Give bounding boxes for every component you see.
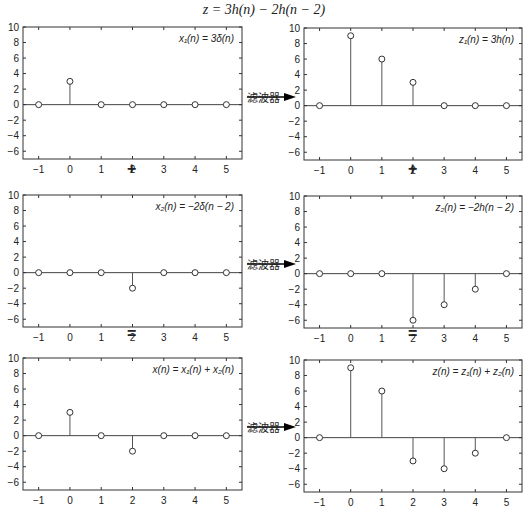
svg-text:10: 10 — [289, 23, 301, 34]
svg-text:−4: −4 — [289, 299, 301, 310]
stem-plot-1: −6−4−20246810−1012345x₁(n) = 3δ(n) — [8, 22, 242, 176]
svg-text:−1: −1 — [33, 164, 45, 175]
svg-text:−2: −2 — [8, 283, 20, 294]
svg-text:3: 3 — [161, 495, 167, 506]
svg-text:0: 0 — [294, 432, 300, 443]
svg-text:10: 10 — [289, 191, 301, 202]
equals-right: = — [408, 325, 417, 343]
plus-left: + — [127, 160, 136, 178]
svg-text:8: 8 — [294, 370, 300, 381]
svg-text:1: 1 — [379, 497, 385, 508]
svg-text:2: 2 — [13, 84, 19, 95]
svg-text:−2: −2 — [8, 115, 20, 126]
svg-text:x(n) = x₁(n) + x₂(n): x(n) = x₁(n) + x₂(n) — [152, 364, 234, 375]
svg-text:1: 1 — [98, 332, 104, 343]
svg-text:8: 8 — [294, 38, 300, 49]
svg-text:0: 0 — [13, 99, 19, 110]
svg-text:5: 5 — [504, 333, 510, 344]
svg-text:6: 6 — [294, 222, 300, 233]
svg-text:−6: −6 — [8, 146, 20, 157]
svg-text:4: 4 — [473, 165, 479, 176]
svg-text:−6: −6 — [8, 314, 20, 325]
svg-text:5: 5 — [224, 495, 230, 506]
svg-text:−4: −4 — [289, 463, 301, 474]
svg-text:1: 1 — [379, 165, 385, 176]
svg-text:8: 8 — [13, 205, 19, 216]
svg-text:−2: −2 — [289, 116, 301, 127]
svg-text:0: 0 — [348, 497, 354, 508]
svg-text:x₂(n) = −2δ(n − 2): x₂(n) = −2δ(n − 2) — [154, 201, 234, 212]
svg-text:6: 6 — [294, 54, 300, 65]
svg-text:4: 4 — [192, 332, 198, 343]
svg-text:−4: −4 — [8, 298, 20, 309]
plus-right: + — [408, 160, 417, 178]
svg-text:0: 0 — [67, 495, 73, 506]
svg-text:6: 6 — [13, 384, 19, 395]
svg-text:−2: −2 — [289, 448, 301, 459]
svg-text:5: 5 — [224, 332, 230, 343]
svg-text:−2: −2 — [289, 284, 301, 295]
svg-text:−6: −6 — [289, 315, 301, 326]
svg-text:8: 8 — [13, 37, 19, 48]
svg-text:1: 1 — [98, 495, 104, 506]
svg-text:−4: −4 — [8, 130, 20, 141]
svg-text:6: 6 — [13, 53, 19, 64]
svg-text:0: 0 — [13, 430, 19, 441]
svg-text:10: 10 — [8, 22, 20, 33]
svg-text:−6: −6 — [289, 479, 301, 490]
svg-text:10: 10 — [289, 355, 301, 366]
svg-text:3: 3 — [441, 165, 447, 176]
svg-text:2: 2 — [294, 253, 300, 264]
svg-text:3: 3 — [161, 332, 167, 343]
stem-plot-2: −6−4−20246810−1012345z₁(n) = 3h(n) — [289, 23, 522, 177]
svg-text:10: 10 — [8, 190, 20, 201]
svg-text:−1: −1 — [314, 497, 326, 508]
svg-text:4: 4 — [294, 69, 300, 80]
svg-text:−1: −1 — [314, 165, 326, 176]
svg-text:−1: −1 — [33, 332, 45, 343]
svg-text:3: 3 — [161, 164, 167, 175]
svg-text:−1: −1 — [33, 495, 45, 506]
svg-text:0: 0 — [294, 100, 300, 111]
stem-plot-5: −6−4−20246810−1012345x(n) = x₁(n) + x₂(n… — [8, 353, 242, 507]
svg-text:z(n) = z₁(n) + z₂(n): z(n) = z₁(n) + z₂(n) — [432, 366, 514, 377]
svg-text:−6: −6 — [8, 477, 20, 488]
svg-text:5: 5 — [224, 164, 230, 175]
svg-text:z₂(n) = −2h(n − 2): z₂(n) = −2h(n − 2) — [434, 202, 514, 213]
svg-text:3: 3 — [441, 333, 447, 344]
svg-text:6: 6 — [13, 221, 19, 232]
svg-text:−2: −2 — [8, 446, 20, 457]
svg-text:4: 4 — [294, 237, 300, 248]
equals-left: = — [127, 325, 136, 343]
svg-text:5: 5 — [504, 165, 510, 176]
svg-text:4: 4 — [473, 333, 479, 344]
stem-plot-3: −6−4−20246810−1012345x₂(n) = −2δ(n − 2) — [8, 190, 242, 344]
svg-text:0: 0 — [67, 332, 73, 343]
svg-text:z₁(n) = 3h(n): z₁(n) = 3h(n) — [458, 34, 514, 45]
svg-text:6: 6 — [294, 386, 300, 397]
svg-text:4: 4 — [192, 495, 198, 506]
svg-text:x₁(n) = 3δ(n): x₁(n) = 3δ(n) — [178, 33, 234, 44]
svg-text:5: 5 — [504, 497, 510, 508]
svg-text:4: 4 — [192, 164, 198, 175]
filter-label-2: 滤波器 — [247, 256, 280, 272]
svg-text:10: 10 — [8, 353, 20, 364]
svg-text:4: 4 — [294, 401, 300, 412]
svg-text:2: 2 — [410, 497, 416, 508]
svg-text:1: 1 — [98, 164, 104, 175]
svg-text:0: 0 — [294, 268, 300, 279]
filter-label-1: 滤波器 — [247, 89, 280, 105]
svg-text:1: 1 — [379, 333, 385, 344]
svg-text:−6: −6 — [289, 147, 301, 158]
svg-text:−1: −1 — [314, 333, 326, 344]
svg-text:2: 2 — [294, 85, 300, 96]
svg-text:8: 8 — [13, 368, 19, 379]
stem-plot-4: −6−4−20246810−1012345z₂(n) = −2h(n − 2) — [289, 191, 522, 345]
svg-text:0: 0 — [13, 267, 19, 278]
svg-text:2: 2 — [294, 417, 300, 428]
svg-text:−4: −4 — [8, 461, 20, 472]
svg-text:2: 2 — [130, 495, 136, 506]
stem-plot-6: −6−4−20246810−1012345z(n) = z₁(n) + z₂(n… — [289, 355, 522, 509]
filter-label-3: 滤波器 — [247, 419, 280, 435]
svg-text:4: 4 — [473, 497, 479, 508]
